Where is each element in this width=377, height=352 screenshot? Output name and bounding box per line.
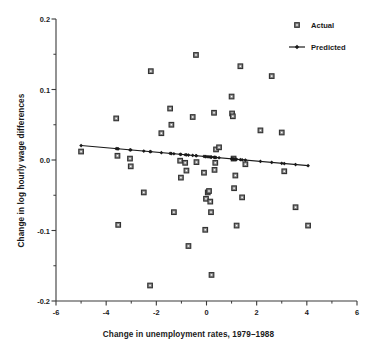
- predicted-point-marker: [142, 149, 146, 153]
- predicted-point-marker: [282, 162, 286, 166]
- actual-point-center: [116, 118, 117, 119]
- x-tick-label: 2: [255, 308, 259, 317]
- predicted-point-marker: [195, 154, 199, 158]
- actual-point-center: [284, 171, 285, 172]
- actual-point-center: [208, 190, 209, 191]
- actual-point-center: [186, 170, 187, 171]
- actual-point-center: [118, 224, 119, 225]
- actual-point-center: [195, 54, 196, 55]
- x-tick-label: 0: [204, 308, 208, 317]
- actual-point-center: [210, 211, 211, 212]
- actual-point-center: [171, 124, 172, 125]
- actual-point-center: [214, 169, 215, 170]
- axes: [52, 19, 358, 306]
- y-tick-label: 0.0: [18, 156, 50, 165]
- y-axis-title: Change in log hourly wage differences: [17, 46, 26, 296]
- actual-point-center: [149, 285, 150, 286]
- actual-point-center: [203, 172, 204, 173]
- actual-point-center: [143, 192, 144, 193]
- actual-point-center: [161, 133, 162, 134]
- predicted-point-marker: [217, 156, 221, 160]
- actual-point-center: [205, 229, 206, 230]
- actual-point-center: [233, 188, 234, 189]
- x-tick-label: 4: [305, 308, 309, 317]
- actual-point-center: [241, 197, 242, 198]
- actual-point-center: [80, 151, 81, 152]
- actual-point-center: [173, 211, 174, 212]
- legend-label-predicted: Predicted: [311, 43, 346, 52]
- actual-point-center: [169, 108, 170, 109]
- actual-point-center: [295, 207, 296, 208]
- chart-figure: Change in unemployment rates, 1979–1988 …: [0, 0, 377, 352]
- actual-point-center: [240, 66, 241, 67]
- actual-point-center: [196, 161, 197, 162]
- x-tick-label: -2: [153, 308, 160, 317]
- legend-marks: [289, 23, 305, 50]
- actual-point-center: [188, 245, 189, 246]
- actual-point-center: [260, 130, 261, 131]
- actual-point-center: [179, 160, 180, 161]
- actual-point-center: [231, 96, 232, 97]
- actual-points-series: [79, 53, 311, 288]
- actual-point-center: [180, 177, 181, 178]
- x-axis-title: Change in unemployment rates, 1979–1988: [0, 330, 377, 339]
- legend-predicted-marker: [295, 45, 299, 49]
- predicted-point-marker: [79, 144, 83, 148]
- predicted-point-marker: [160, 151, 164, 155]
- actual-point-center: [130, 166, 131, 167]
- y-tick-label: 0.2: [18, 15, 50, 24]
- actual-point-center: [218, 147, 219, 148]
- x-tick-label: -4: [103, 308, 110, 317]
- actual-point-center: [236, 225, 237, 226]
- actual-point-center: [210, 201, 211, 202]
- predicted-point-marker: [172, 152, 176, 156]
- actual-point-center: [129, 158, 130, 159]
- actual-point-center: [215, 162, 216, 163]
- actual-point-center: [232, 116, 233, 117]
- predicted-point-marker: [259, 160, 263, 164]
- actual-point-center: [211, 274, 212, 275]
- actual-point-center: [235, 175, 236, 176]
- legend-actual-marker-center: [296, 24, 297, 25]
- actual-point-center: [245, 164, 246, 165]
- scatter-plot-canvas: [0, 0, 377, 352]
- y-tick-label: -0.1: [18, 226, 50, 235]
- actual-point-center: [205, 198, 206, 199]
- actual-point-center: [213, 112, 214, 113]
- predicted-point-marker: [294, 163, 298, 167]
- actual-point-center: [117, 155, 118, 156]
- predicted-point-marker: [306, 164, 310, 168]
- legend-label-actual: Actual: [311, 21, 334, 30]
- actual-point-center: [281, 132, 282, 133]
- y-tick-label: -0.2: [18, 297, 50, 306]
- predicted-point-marker: [270, 161, 274, 165]
- y-tick-label: 0.1: [18, 85, 50, 94]
- actual-point-center: [307, 225, 308, 226]
- actual-point-center: [271, 75, 272, 76]
- x-tick-label: -6: [53, 308, 60, 317]
- predicted-point-marker: [191, 154, 195, 158]
- actual-point-center: [192, 116, 193, 117]
- actual-point-center: [184, 162, 185, 163]
- x-tick-label: 6: [355, 308, 359, 317]
- actual-point-center: [150, 70, 151, 71]
